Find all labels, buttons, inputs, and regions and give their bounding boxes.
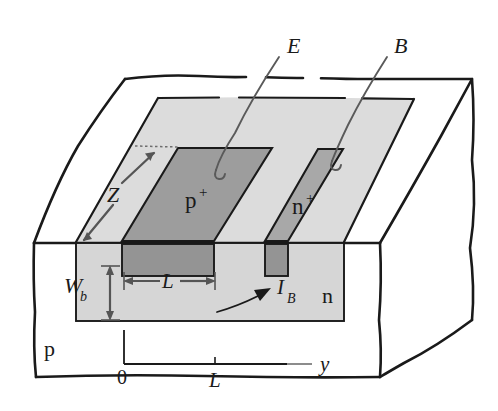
n-base-label: n: [322, 283, 333, 308]
nplus-contact-front-rect: [265, 244, 288, 276]
pplus-superscript: +: [199, 184, 207, 200]
y-axis-label: y: [318, 352, 330, 376]
dimension-L-label: L: [161, 269, 174, 293]
y-axis-tick-label-L: L: [208, 368, 221, 392]
dimension-Wb-subscript: b: [80, 289, 87, 304]
figure-canvas: E B Z W b L I: [0, 0, 498, 411]
p-substrate-label: p: [44, 336, 55, 361]
nplus-superscript: +: [306, 190, 314, 206]
emitter-callout-label: E: [286, 33, 301, 58]
dimension-Z-label: Z: [107, 182, 120, 207]
IB-label: I: [276, 275, 285, 299]
Z-extension-line: [135, 146, 178, 147]
IB-subscript: B: [287, 291, 296, 306]
y-axis-tick-label-0: 0: [117, 366, 127, 388]
device-cross-section-diagram: E B Z W b L I: [0, 0, 498, 411]
nplus-label: n: [292, 194, 304, 219]
base-callout-label: B: [394, 33, 407, 58]
pplus-label: p: [185, 188, 197, 213]
